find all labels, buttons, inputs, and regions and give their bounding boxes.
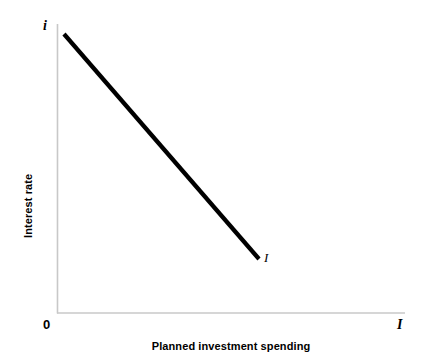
origin-label: 0 bbox=[43, 317, 50, 332]
chart-plot-area bbox=[0, 0, 425, 362]
y-axis-title: Interest rate bbox=[22, 182, 34, 238]
investment-curve-label: I bbox=[264, 250, 268, 266]
chart-background bbox=[0, 0, 425, 362]
y-axis-intercept-label: i bbox=[43, 18, 47, 34]
investment-demand-chart: i 0 I I Interest rate Planned investment… bbox=[0, 0, 425, 362]
x-axis-end-label: I bbox=[397, 317, 402, 333]
x-axis-title: Planned investment spending bbox=[57, 340, 405, 352]
